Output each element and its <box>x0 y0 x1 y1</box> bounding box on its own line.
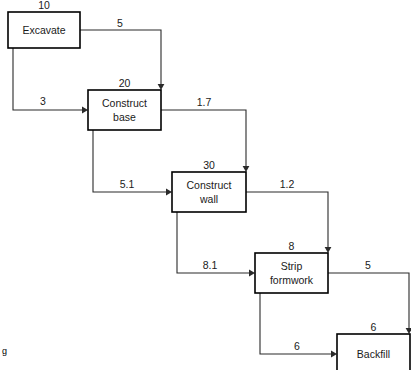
node-label-line2: base <box>113 111 136 123</box>
node-strip-formwork[interactable]: Stripformwork8 <box>255 240 328 293</box>
edge-lag-label: 1.2 <box>280 178 295 190</box>
node-duration-label: 20 <box>119 77 131 89</box>
node-label-line1: Construct <box>187 179 232 191</box>
node-backfill[interactable]: Backfill6 <box>337 321 410 370</box>
node-label-line1: Excavate <box>22 24 65 36</box>
node-label-line1: Strip <box>281 260 303 272</box>
edge-wall-to-strip-left: 8.1 <box>177 212 255 276</box>
diagram-canvas: 531.75.11.28.156 Excavate10Constructbase… <box>0 0 411 370</box>
edge-excavate-to-base-left: 3 <box>13 48 88 113</box>
node-label-line1: Construct <box>102 97 147 109</box>
arrowhead-icon <box>82 107 88 114</box>
node-label-line2: formwork <box>270 274 314 286</box>
edge-line <box>328 273 409 330</box>
node-duration-label: 30 <box>203 159 215 171</box>
node-duration-label: 8 <box>289 240 295 252</box>
node-duration-label: 6 <box>371 321 377 333</box>
arrowhead-icon <box>158 84 165 90</box>
arrowhead-icon <box>406 328 411 334</box>
nodes-layer: Excavate10Constructbase20Constructwall30… <box>8 0 410 370</box>
node-construct-wall[interactable]: Constructwall30 <box>172 159 246 212</box>
edge-lag-label: 5.1 <box>120 178 135 190</box>
arrowhead-icon <box>166 189 172 196</box>
edge-base-to-wall-left: 5.1 <box>93 130 172 195</box>
node-label-line2: wall <box>199 193 218 205</box>
node-duration-label: 10 <box>38 0 50 11</box>
node-label-line1: Backfill <box>357 348 390 360</box>
edge-strip-to-backfill-top: 5 <box>328 259 411 334</box>
arrowhead-icon <box>325 247 332 253</box>
edge-lag-label: 1.7 <box>197 96 212 108</box>
edge-line <box>246 192 328 249</box>
edge-strip-to-backfill-left: 6 <box>260 293 337 357</box>
edge-lag-label: 3 <box>40 95 46 107</box>
arrowhead-icon <box>331 351 337 358</box>
node-excavate[interactable]: Excavate10 <box>8 0 80 48</box>
edge-lag-label: 5 <box>365 259 371 271</box>
precedence-network-diagram: 531.75.11.28.156 Excavate10Constructbase… <box>0 0 411 370</box>
edge-line <box>13 48 84 110</box>
arrowhead-icon <box>249 270 255 277</box>
arrowhead-icon <box>243 166 250 172</box>
edge-lag-label: 5 <box>117 17 123 29</box>
edge-lag-label: 6 <box>294 340 300 352</box>
page-corner-mark: g <box>2 346 7 356</box>
edge-lag-label: 8.1 <box>203 259 218 271</box>
node-construct-base[interactable]: Constructbase20 <box>88 77 161 130</box>
